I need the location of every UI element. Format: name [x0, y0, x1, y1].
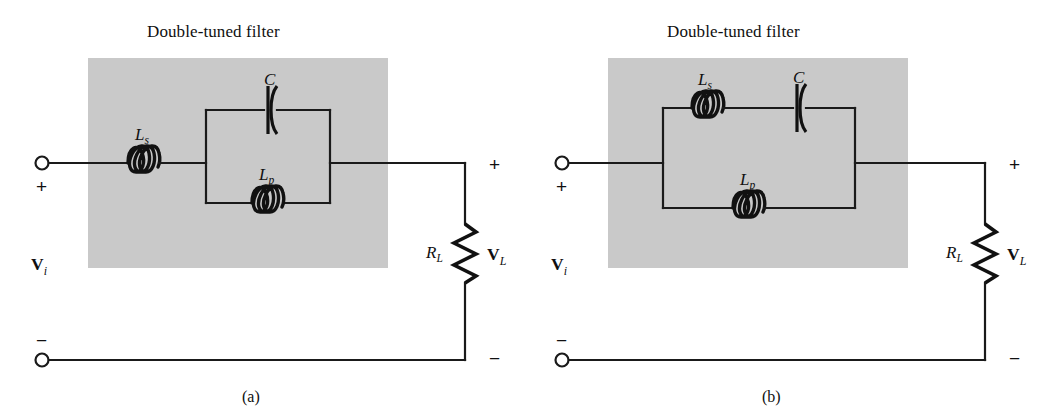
load-resistor-label-a: RL — [426, 244, 443, 265]
output-plus-sign-b: + — [1009, 155, 1020, 174]
input-plus-sign-a: + — [36, 177, 47, 196]
load-resistor-symbol-b: R — [946, 243, 956, 262]
load-voltage-label-a: VL — [487, 246, 506, 267]
input-voltage-symbol-a: V — [31, 254, 44, 274]
capacitor-symbol-a: C — [264, 70, 275, 89]
input-voltage-label-b: Vi — [551, 256, 567, 277]
load-voltage-label-b: VL — [1007, 246, 1026, 267]
input-minus-sign-a: − — [36, 331, 47, 350]
input-voltage-subscript-b: i — [564, 264, 567, 278]
load-voltage-symbol-b: V — [1007, 244, 1020, 264]
filter-title-b: Double-tuned filter — [667, 23, 800, 40]
output-plus-sign-a: + — [489, 155, 500, 174]
output-minus-sign-a: − — [489, 349, 500, 368]
filter-title-a: Double-tuned filter — [147, 23, 280, 40]
load-voltage-subscript-a: L — [500, 254, 507, 268]
figure-container: Double-tuned filter Ls C Lp RL Vi VL + −… — [0, 0, 1060, 416]
capacitor-label-a: C — [264, 71, 275, 88]
input-voltage-label-a: Vi — [31, 256, 47, 277]
caption-b: (b) — [762, 389, 781, 405]
capacitor-label-b: C — [793, 69, 804, 86]
capacitor-symbol-b: C — [793, 68, 804, 87]
output-minus-sign-b: − — [1009, 349, 1020, 368]
input-minus-sign-b: − — [556, 331, 567, 350]
caption-a: (a) — [242, 389, 260, 405]
input-terminal-top-b — [556, 157, 569, 170]
parallel-inductor-label-b: Lp — [740, 171, 755, 192]
load-voltage-subscript-b: L — [1020, 254, 1027, 268]
load-resistor-symbol-a: R — [426, 243, 436, 262]
resistor-load-b — [974, 224, 996, 283]
input-voltage-symbol-b: V — [551, 254, 564, 274]
panel-b-graphics — [556, 58, 997, 367]
input-plus-sign-b: + — [556, 177, 567, 196]
series-inductor-label-b: Ls — [698, 71, 712, 92]
input-terminal-top-a — [36, 157, 49, 170]
load-resistor-subscript-b: L — [956, 252, 962, 264]
circuit-svg — [0, 0, 1060, 416]
series-inductor-label-a: Ls — [135, 126, 149, 147]
series-inductor-subscript-b: s — [707, 79, 711, 91]
load-resistor-subscript-a: L — [436, 252, 442, 264]
series-inductor-subscript-a: s — [144, 134, 148, 146]
resistor-load-a — [454, 224, 476, 283]
parallel-inductor-subscript-a: p — [268, 174, 274, 186]
parallel-inductor-label-a: Lp — [259, 166, 274, 187]
load-resistor-label-b: RL — [946, 244, 963, 265]
load-voltage-symbol-a: V — [487, 244, 500, 264]
input-terminal-bottom-b — [556, 354, 569, 367]
input-voltage-subscript-a: i — [44, 264, 47, 278]
input-terminal-bottom-a — [36, 354, 49, 367]
parallel-inductor-subscript-b: p — [749, 179, 755, 191]
panel-a-graphics — [36, 58, 477, 367]
